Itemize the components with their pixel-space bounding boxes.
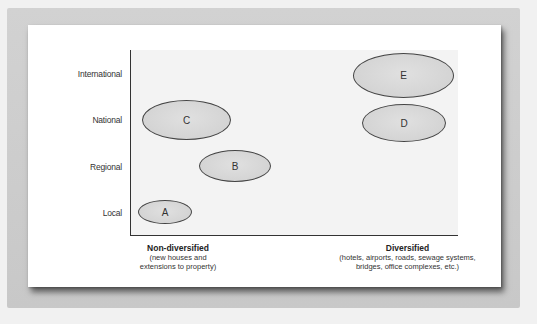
node-label-b: B — [232, 161, 239, 172]
ellipse-node-d: D — [362, 104, 446, 142]
node-label-e: E — [400, 70, 407, 81]
x-axis-line — [130, 235, 458, 236]
node-label-c: C — [183, 115, 190, 126]
x-label-diversified-sub2: bridges, office complexes, etc.) — [330, 262, 485, 271]
x-label-non-diversified-title: Non-diversified — [118, 244, 238, 253]
x-label-non-diversified: Non-diversified (new houses and extensio… — [118, 244, 238, 271]
x-label-diversified-sub1: (hotels, airports, roads, sewage systems… — [330, 253, 485, 262]
node-label-a: A — [162, 207, 169, 218]
x-label-non-diversified-sub2: extensions to property) — [118, 262, 238, 271]
x-label-diversified-title: Diversified — [330, 244, 485, 253]
ellipse-node-c: C — [142, 100, 231, 140]
y-axis-line — [130, 50, 131, 236]
x-label-non-diversified-sub1: (new houses and — [118, 253, 238, 262]
ellipse-node-b: B — [199, 150, 271, 182]
y-label-international: International — [22, 69, 122, 79]
ellipse-node-e: E — [353, 53, 454, 98]
y-label-national: National — [22, 115, 122, 125]
x-label-diversified: Diversified (hotels, airports, roads, se… — [330, 244, 485, 271]
node-label-d: D — [400, 118, 407, 129]
ellipse-node-a: A — [138, 200, 192, 224]
y-label-local: Local — [22, 208, 122, 218]
y-label-regional: Regional — [22, 162, 122, 172]
